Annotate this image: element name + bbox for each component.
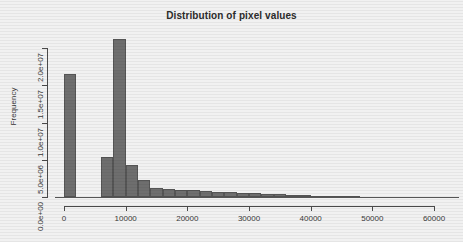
histogram-bar bbox=[101, 157, 113, 197]
histogram-bar bbox=[175, 190, 187, 197]
y-tick-label: 5.0e+06 bbox=[36, 158, 45, 200]
histogram-bar bbox=[163, 189, 175, 197]
x-tick-label: 0 bbox=[62, 214, 66, 223]
x-tick-mark bbox=[434, 206, 435, 211]
y-tick-label: 0.0e+00 bbox=[36, 196, 45, 238]
x-tick-mark bbox=[64, 206, 65, 211]
x-tick-mark bbox=[372, 206, 373, 211]
x-tick-label: 30000 bbox=[238, 214, 260, 223]
histogram-bar bbox=[187, 190, 199, 197]
plot-baseline bbox=[55, 197, 459, 198]
histogram-bar bbox=[138, 180, 150, 197]
y-tick-label: 1.0e+07 bbox=[36, 121, 45, 163]
histogram-bar bbox=[64, 74, 76, 197]
y-axis-title: Frequency bbox=[9, 77, 18, 137]
histogram-bar bbox=[126, 165, 138, 197]
histogram-figure: Distribution of pixel values Frequency 0… bbox=[0, 0, 463, 242]
x-tick-mark bbox=[311, 206, 312, 211]
x-tick-mark bbox=[126, 206, 127, 211]
x-tick-label: 40000 bbox=[300, 214, 322, 223]
x-tick-label: 20000 bbox=[176, 214, 198, 223]
x-tick-label: 60000 bbox=[423, 214, 445, 223]
x-tick-mark bbox=[187, 206, 188, 211]
y-tick-label: 1.5e+07 bbox=[36, 84, 45, 126]
histogram-bar bbox=[150, 188, 162, 197]
chart-title: Distribution of pixel values bbox=[0, 10, 463, 21]
x-tick-label: 50000 bbox=[361, 214, 383, 223]
histogram-bar bbox=[113, 39, 125, 197]
x-tick-mark bbox=[249, 206, 250, 211]
x-tick-label: 10000 bbox=[115, 214, 137, 223]
y-tick-label: 2.0e+07 bbox=[36, 47, 45, 89]
y-axis-line bbox=[47, 48, 48, 198]
